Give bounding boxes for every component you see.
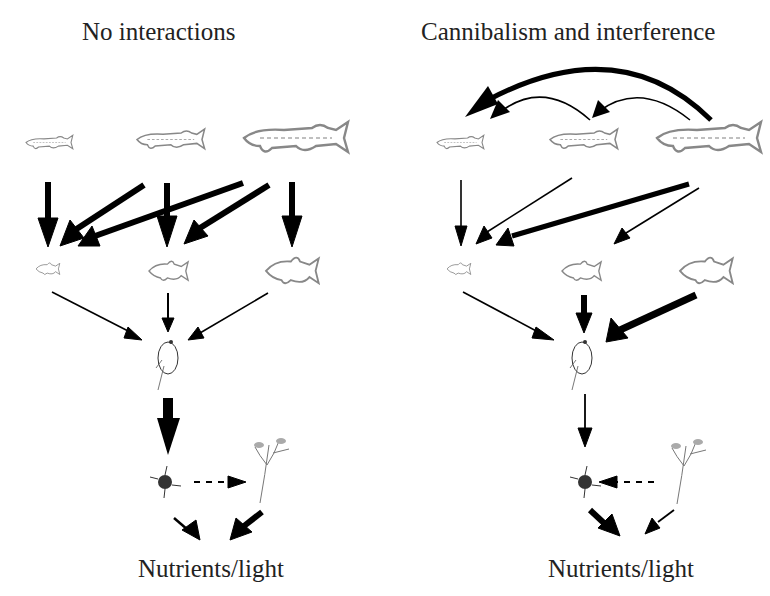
small-prey-fish-icon: [36, 263, 60, 275]
small-prey-fish-icon: [447, 263, 471, 275]
medium-prey-fish-icon: [149, 261, 188, 280]
macrophyte-plant-icon: [671, 439, 706, 504]
small-pike-icon: [437, 135, 484, 149]
large-prey-fish-icon: [266, 258, 319, 284]
algae-icon: [150, 466, 181, 498]
algae-icon: [570, 466, 601, 498]
small-pike-icon: [26, 135, 73, 149]
daphnia-icon: [570, 340, 592, 390]
right-panel-graph: [437, 69, 761, 536]
large-pike-icon: [244, 122, 348, 152]
daphnia-icon: [156, 340, 178, 390]
macrophyte-plant-icon: [254, 438, 289, 503]
left-panel-graph: [26, 122, 348, 540]
medium-pike-icon: [137, 129, 205, 149]
medium-prey-fish-icon: [562, 261, 601, 280]
food-web-diagram: [0, 0, 770, 596]
large-pike-icon: [657, 122, 761, 152]
large-prey-fish-icon: [680, 258, 733, 284]
medium-pike-icon: [550, 129, 618, 149]
